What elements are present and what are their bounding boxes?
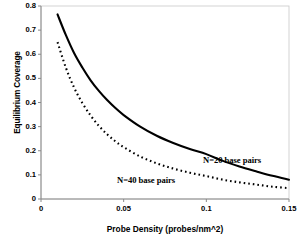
x-tick-label: 0.1 [186, 205, 226, 213]
x-tick-label-group: 00.050.10.15 [0, 205, 302, 217]
x-tick-label: 0.05 [104, 205, 144, 213]
x-tick-label: 0 [21, 205, 61, 213]
y-tick-label: 0 [12, 195, 36, 203]
x-tick-label: 0.15 [269, 205, 302, 213]
y-axis-title: Equilibrium Coverage [13, 18, 22, 168]
chart-figure: 00.10.20.30.40.50.60.70.8 00.050.10.15 E… [0, 0, 302, 243]
y-tick-label: 0.8 [12, 2, 36, 10]
y-tick-label: 0.1 [12, 171, 36, 179]
series-annotation-n20: N=20 base pairs [203, 155, 261, 165]
x-axis-title: Probe Density (probes/nm^2) [41, 224, 289, 234]
series-annotation-n40: N=40 base pairs [117, 175, 175, 185]
